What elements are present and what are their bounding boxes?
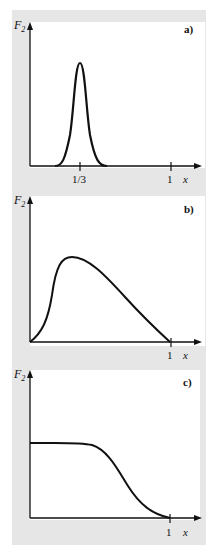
panel-a-svg: F2 a) 1/3 1 x (0, 0, 215, 185)
plot-area (30, 22, 205, 168)
panel-b-svg: F2 b) 1 x (0, 185, 215, 360)
panel-label: b) (184, 203, 194, 216)
xtick-label-1-3: 1/3 (72, 173, 87, 185)
panel-c-svg: F2 c) 1 x (0, 360, 215, 545)
panel-label: c) (183, 376, 192, 389)
panel-c: F2 c) 1 x (0, 360, 215, 545)
panel-label: a) (184, 23, 194, 36)
x-axis-label: x (182, 526, 188, 538)
xtick-label-1: 1 (167, 173, 173, 185)
xtick-label-1: 1 (166, 526, 172, 538)
y-axis-label: F2 (13, 367, 25, 383)
plot-area (30, 370, 200, 520)
panel-a: F2 a) 1/3 1 x (0, 0, 215, 185)
x-axis-label: x (182, 173, 188, 185)
panel-b: F2 b) 1 x (0, 185, 215, 360)
y-axis-label: F2 (13, 193, 25, 209)
y-axis-label: F2 (13, 18, 25, 34)
